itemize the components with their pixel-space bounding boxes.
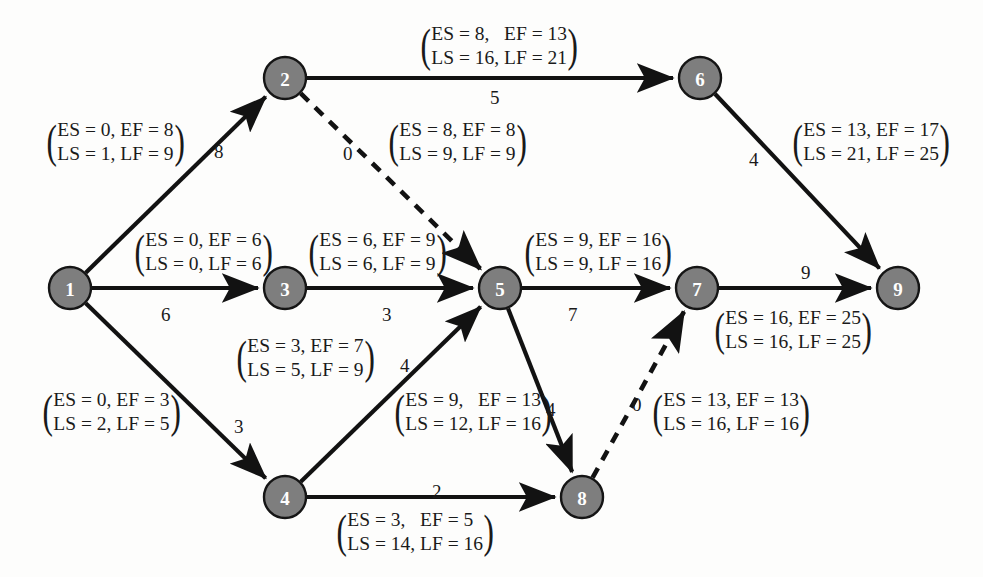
late-times-row: LS = 16, LF = 21 — [431, 46, 567, 70]
late-times-row: LS = 21, LF = 25 — [803, 142, 939, 166]
left-paren: ( — [420, 25, 430, 67]
node-label-2: 2 — [280, 69, 290, 90]
duration-label-e45: 4 — [400, 356, 410, 375]
left-paren: ( — [46, 121, 56, 163]
schedule-label-e48: (ES = 3, EF = 5 LS = 14, LF = 16) — [334, 508, 496, 556]
left-paren: ( — [308, 231, 318, 273]
node-label-5: 5 — [495, 279, 505, 300]
duration-label-e69: 4 — [749, 150, 759, 169]
schedule-rows: ES = 9, EF = 16LS = 9, LF = 16 — [535, 228, 661, 276]
early-times-row: ES = 0, EF = 3 — [53, 388, 169, 412]
left-paren: ( — [236, 337, 246, 379]
early-times-row: ES = 16, EF = 25 — [725, 306, 861, 330]
left-paren: ( — [336, 511, 346, 553]
right-paren: ) — [364, 337, 374, 379]
left-paren: ( — [388, 121, 398, 163]
schedule-rows: ES = 9, EF = 13LS = 12, LF = 16 — [405, 388, 541, 436]
schedule-label-e25: (ES = 8, EF = 8LS = 9, LF = 9) — [386, 118, 529, 166]
schedule-rows: ES = 8, EF = 8LS = 9, LF = 9 — [399, 118, 515, 166]
right-paren: ) — [262, 231, 272, 273]
node-label-6: 6 — [695, 69, 705, 90]
project-network-diagram: 123456789 8635034274409 (ES = 0, EF = 8L… — [0, 0, 983, 577]
duration-label-e35: 3 — [382, 305, 392, 324]
left-paren: ( — [792, 121, 802, 163]
node-label-1: 1 — [65, 279, 75, 300]
right-paren: ) — [170, 391, 180, 433]
right-paren: ) — [484, 511, 494, 553]
duration-label-e48: 2 — [432, 482, 442, 501]
right-paren: ) — [516, 121, 526, 163]
node-label-3: 3 — [280, 279, 290, 300]
early-times-row: ES = 0, EF = 6 — [145, 228, 261, 252]
node-9[interactable]: 9 — [877, 267, 919, 309]
schedule-label-e57: (ES = 9, EF = 16LS = 9, LF = 16) — [522, 228, 675, 276]
right-paren: ) — [436, 231, 446, 273]
early-times-row: ES = 3, EF = 7 — [247, 334, 363, 358]
schedule-rows: ES = 3, EF = 5 LS = 14, LF = 16 — [347, 508, 483, 556]
right-paren: ) — [940, 121, 950, 163]
early-times-row: ES = 9, EF = 16 — [535, 228, 661, 252]
node-label-9: 9 — [893, 279, 903, 300]
schedule-label-e79: (ES = 16, EF = 25LS = 16, LF = 25) — [712, 306, 874, 354]
right-paren: ) — [542, 391, 552, 433]
late-times-row: LS = 9, LF = 9 — [399, 142, 515, 166]
duration-label-e57: 7 — [568, 305, 578, 324]
early-times-row: ES = 3, EF = 5 — [347, 508, 483, 532]
late-times-row: LS = 9, LF = 16 — [535, 252, 661, 276]
left-paren: ( — [652, 391, 662, 433]
node-2[interactable]: 2 — [264, 57, 306, 99]
early-times-row: ES = 13, EF = 13 — [663, 388, 799, 412]
right-paren: ) — [662, 231, 672, 273]
early-times-row: ES = 9, EF = 13 — [405, 388, 541, 412]
schedule-rows: ES = 0, EF = 3LS = 2, LF = 5 — [53, 388, 169, 436]
node-6[interactable]: 6 — [679, 57, 721, 99]
late-times-row: LS = 1, LF = 9 — [57, 142, 173, 166]
early-times-row: ES = 13, EF = 17 — [803, 118, 939, 142]
schedule-rows: ES = 6, EF = 9LS = 6, LF = 9 — [319, 228, 435, 276]
schedule-rows: ES = 13, EF = 13LS = 16, LF = 16 — [663, 388, 799, 436]
schedule-label-e58: (ES = 9, EF = 13LS = 12, LF = 16) — [392, 388, 554, 436]
late-times-row: LS = 6, LF = 9 — [319, 252, 435, 276]
duration-label-e14: 3 — [234, 417, 244, 436]
duration-label-e26: 5 — [490, 88, 500, 107]
schedule-label-e26: (ES = 8, EF = 13LS = 16, LF = 21) — [418, 22, 580, 70]
duration-label-e79: 9 — [801, 263, 811, 282]
early-times-row: ES = 8, EF = 8 — [399, 118, 515, 142]
duration-label-e87: 0 — [632, 395, 642, 414]
schedule-label-e35: (ES = 6, EF = 9LS = 6, LF = 9) — [306, 228, 449, 276]
left-paren: ( — [524, 231, 534, 273]
right-paren: ) — [862, 309, 872, 351]
schedule-label-e69: (ES = 13, EF = 17LS = 21, LF = 25) — [790, 118, 952, 166]
early-times-row: ES = 8, EF = 13 — [431, 22, 567, 46]
schedule-label-e45: (ES = 3, EF = 7LS = 5, LF = 9) — [234, 334, 377, 382]
left-paren: ( — [394, 391, 404, 433]
node-label-7: 7 — [692, 279, 702, 300]
schedule-rows: ES = 0, EF = 8LS = 1, LF = 9 — [57, 118, 173, 166]
late-times-row: LS = 12, LF = 16 — [405, 412, 541, 436]
schedule-label-e14: (ES = 0, EF = 3LS = 2, LF = 5) — [40, 388, 183, 436]
duration-label-e12: 8 — [214, 142, 224, 161]
late-times-row: LS = 0, LF = 6 — [145, 252, 261, 276]
duration-label-e13: 6 — [161, 305, 171, 324]
schedule-rows: ES = 8, EF = 13LS = 16, LF = 21 — [431, 22, 567, 70]
left-paren: ( — [714, 309, 724, 351]
node-5[interactable]: 5 — [479, 267, 521, 309]
left-paren: ( — [42, 391, 52, 433]
schedule-label-e87: (ES = 13, EF = 13LS = 16, LF = 16) — [650, 388, 812, 436]
node-4[interactable]: 4 — [264, 476, 306, 518]
left-paren: ( — [134, 231, 144, 273]
late-times-row: LS = 5, LF = 9 — [247, 358, 363, 382]
node-1[interactable]: 1 — [49, 267, 91, 309]
node-label-4: 4 — [280, 488, 290, 509]
right-paren: ) — [174, 121, 184, 163]
schedule-rows: ES = 3, EF = 7LS = 5, LF = 9 — [247, 334, 363, 382]
schedule-rows: ES = 0, EF = 6LS = 0, LF = 6 — [145, 228, 261, 276]
node-8[interactable]: 8 — [561, 476, 603, 518]
schedule-rows: ES = 16, EF = 25LS = 16, LF = 25 — [725, 306, 861, 354]
schedule-label-e12: (ES = 0, EF = 8LS = 1, LF = 9) — [44, 118, 187, 166]
early-times-row: ES = 6, EF = 9 — [319, 228, 435, 252]
right-paren: ) — [800, 391, 810, 433]
node-label-8: 8 — [577, 488, 587, 509]
right-paren: ) — [568, 25, 578, 67]
node-7[interactable]: 7 — [676, 267, 718, 309]
